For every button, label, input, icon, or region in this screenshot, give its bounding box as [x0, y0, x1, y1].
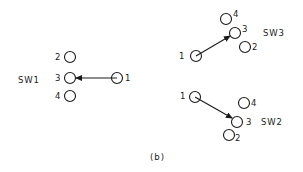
port-label: 3 — [246, 117, 251, 127]
port-label: 4 — [251, 98, 256, 108]
switch-label: SW1 — [18, 75, 40, 85]
switch-sw1: SW1 2 3 4 1 — [18, 52, 130, 102]
figure-caption: (b) — [150, 152, 165, 162]
port-label: 1 — [125, 73, 130, 83]
connection-arrow — [195, 97, 232, 118]
port-label: 3 — [55, 73, 60, 83]
port-2-node — [240, 42, 251, 53]
switch-label: SW2 — [261, 117, 283, 127]
port-label: 1 — [180, 91, 185, 101]
port-2-node — [65, 52, 76, 63]
port-4-node — [65, 91, 76, 102]
switch-sw2: 1 4 3 2 SW2 — [180, 91, 283, 143]
port-label: 2 — [55, 52, 60, 62]
port-4-node — [221, 14, 232, 25]
port-3-node — [232, 117, 243, 128]
switch-diagram: SW1 2 3 4 1 4 3 2 1 SW3 1 4 3 2 SW2 (b) — [0, 0, 303, 172]
port-3-node — [65, 73, 76, 84]
port-label: 2 — [235, 133, 240, 143]
port-2-node — [224, 130, 235, 141]
connection-arrow — [196, 36, 230, 56]
switch-sw3: 4 3 2 1 SW3 — [179, 9, 285, 62]
port-label: 4 — [55, 91, 60, 101]
port-label: 2 — [252, 42, 257, 52]
port-3-node — [230, 28, 241, 39]
port-label: 4 — [233, 9, 238, 19]
switch-label: SW3 — [263, 28, 285, 38]
port-label: 1 — [179, 51, 184, 61]
port-label: 3 — [242, 24, 247, 34]
port-4-node — [239, 98, 250, 109]
